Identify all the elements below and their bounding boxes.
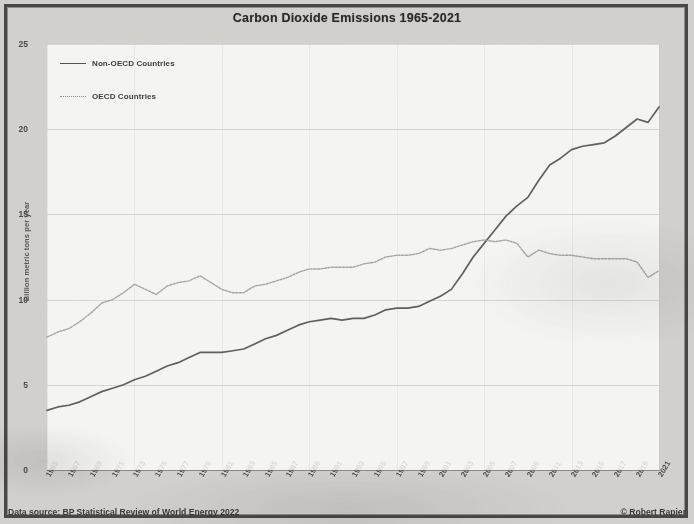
legend-item-non-oecd: Non-OECD Countries bbox=[60, 54, 175, 73]
y-tick-label: 15 bbox=[0, 209, 28, 219]
credit-text: © Robert Rapier bbox=[620, 507, 686, 517]
legend-item-oecd: OECD Countries bbox=[60, 87, 175, 106]
series-lines bbox=[47, 44, 659, 470]
chart-legend: Non-OECD Countries OECD Countries bbox=[60, 54, 175, 106]
legend-swatch-dotted-icon bbox=[60, 96, 86, 97]
data-source-text: Data source: BP Statistical Review of Wo… bbox=[8, 507, 239, 517]
legend-swatch-solid-icon bbox=[60, 63, 86, 64]
y-axis-label-container: Billion metric tons per year bbox=[14, 155, 28, 355]
legend-label-oecd: OECD Countries bbox=[92, 92, 156, 101]
series-line-oecd bbox=[47, 240, 659, 337]
y-axis-label: Billion metric tons per year bbox=[22, 152, 31, 352]
y-tick-label: 5 bbox=[0, 380, 28, 390]
plot-area bbox=[47, 44, 659, 470]
legend-label-non-oecd: Non-OECD Countries bbox=[92, 59, 175, 68]
chart-page: Carbon Dioxide Emissions 1965-2021 Billi… bbox=[0, 0, 694, 524]
y-tick-label: 20 bbox=[0, 124, 28, 134]
chart-title: Carbon Dioxide Emissions 1965-2021 bbox=[0, 11, 694, 25]
y-tick-label: 0 bbox=[0, 465, 28, 475]
y-tick-label: 25 bbox=[0, 39, 28, 49]
x-axis-line bbox=[47, 470, 660, 471]
y-tick-label: 10 bbox=[0, 295, 28, 305]
series-line-non-oecd bbox=[47, 107, 659, 410]
